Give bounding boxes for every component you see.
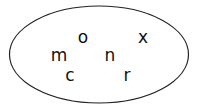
set-element-c: c [65, 65, 74, 85]
set-element-n: n [105, 45, 116, 65]
set-element-o: o [78, 27, 88, 47]
set-element-x: x [138, 27, 148, 47]
set-diagram: o x m n c r [0, 0, 198, 108]
set-element-r: r [124, 65, 131, 85]
set-boundary-ellipse [10, 6, 189, 103]
set-element-m: m [51, 45, 68, 65]
